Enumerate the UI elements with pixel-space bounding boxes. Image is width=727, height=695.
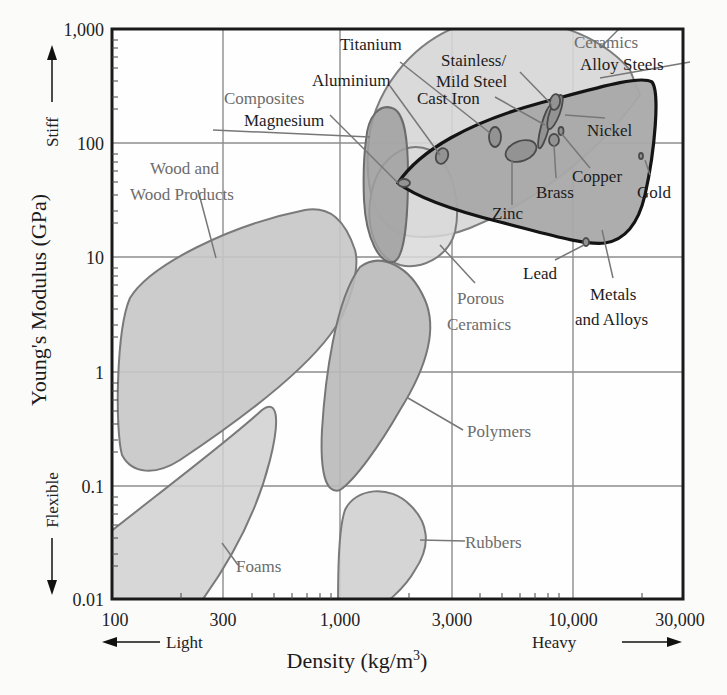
label-polymers: Polymers <box>467 422 531 441</box>
point-lead <box>583 238 589 246</box>
label-aluminium: Aluminium <box>312 71 390 90</box>
label-nickel: Nickel <box>587 121 633 140</box>
label-ceramics: Ceramics <box>574 33 638 52</box>
svg-text:Heavy: Heavy <box>532 633 577 652</box>
x-tick-300: 300 <box>210 610 237 630</box>
label-gold: Gold <box>637 183 672 202</box>
label-cast-iron: Cast Iron <box>417 89 480 108</box>
label-metals-2: and Alloys <box>575 310 648 329</box>
x-tick-30000: 30,000 <box>655 610 705 630</box>
point-gold <box>639 153 643 159</box>
heavy-indicator: Heavy <box>532 633 682 652</box>
x-tick-3000: 3,000 <box>432 610 473 630</box>
arrow-down-icon <box>47 580 57 595</box>
ashby-chart: 1,000 100 10 1 0.1 0.01 100 300 1,000 3,… <box>0 0 727 695</box>
light-indicator: Light <box>102 633 203 652</box>
flexible-indicator: Flexible <box>43 472 62 595</box>
point-brass <box>549 134 559 146</box>
arrow-right-icon <box>667 637 682 647</box>
label-wood-2: Wood Products <box>130 185 234 204</box>
svg-text:Flexible: Flexible <box>43 472 62 528</box>
arrow-left-icon <box>102 637 117 647</box>
label-lead: Lead <box>523 264 557 283</box>
y-tick-0.01: 0.01 <box>73 590 105 610</box>
svg-text:Light: Light <box>166 633 203 652</box>
label-titanium: Titanium <box>340 35 402 54</box>
label-rubbers: Rubbers <box>465 533 522 552</box>
x-tick-100: 100 <box>102 610 129 630</box>
y-tick-10: 10 <box>86 248 104 268</box>
label-composites: Composites <box>224 89 304 108</box>
x-tick-10000: 10,000 <box>548 610 598 630</box>
point-magnesium <box>398 179 410 187</box>
y-tick-1000: 1,000 <box>64 20 105 40</box>
label-foams: Foams <box>236 557 281 576</box>
point-titanium <box>489 127 501 147</box>
label-porous-2: Ceramics <box>447 315 511 334</box>
label-copper: Copper <box>572 167 622 186</box>
y-tick-labels: 1,000 100 10 1 0.1 0.01 <box>64 20 105 610</box>
label-magnesium: Magnesium <box>244 111 324 130</box>
label-alloy-steels: Alloy Steels <box>580 55 664 74</box>
label-porous-1: Porous <box>457 289 504 308</box>
stiff-indicator: Stiff <box>43 45 62 147</box>
label-wood-1: Wood and <box>150 159 219 178</box>
x-tick-1000: 1,000 <box>320 610 361 630</box>
y-tick-100: 100 <box>77 134 104 154</box>
y-tick-1: 1 <box>95 363 104 383</box>
x-tick-labels: 100 300 1,000 3,000 10,000 30,000 <box>102 610 705 630</box>
svg-text:Stiff: Stiff <box>43 117 62 147</box>
label-zinc: Zinc <box>492 204 524 223</box>
label-stainless-1: Stainless/ <box>441 51 506 70</box>
label-brass: Brass <box>536 183 574 202</box>
x-axis-title: Density (kg/m3) <box>287 648 428 673</box>
y-axis-title: Young's Modulus (GPa) <box>26 194 51 406</box>
label-metals-1: Metals <box>590 285 636 304</box>
arrow-up-icon <box>47 45 57 60</box>
y-tick-0.1: 0.1 <box>82 477 105 497</box>
